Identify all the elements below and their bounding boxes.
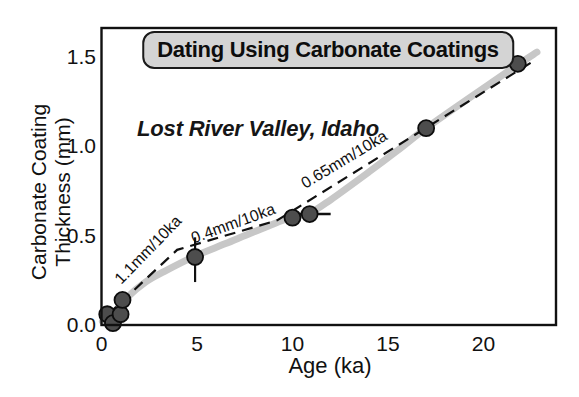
x-tick-label: 20 — [472, 332, 495, 355]
trend-band — [102, 52, 536, 321]
y-axis-title-line2: Thickness (mm) — [51, 104, 75, 280]
x-tick-label: 15 — [376, 332, 399, 355]
data-point — [302, 206, 318, 222]
x-axis-title: Age (ka) — [288, 353, 371, 379]
y-tick-label: 1.5 — [67, 45, 96, 68]
x-tick-label: 0 — [96, 332, 108, 355]
data-point — [418, 120, 434, 136]
data-point — [284, 210, 300, 226]
x-tick-label: 5 — [191, 332, 203, 355]
chart-title: Dating Using Carbonate Coatings — [157, 37, 499, 62]
y-tick-label: 0.0 — [67, 313, 96, 336]
data-point — [115, 292, 131, 308]
y-axis-title: Carbonate Coating Thickness (mm) — [27, 104, 75, 280]
chart-title-box: Dating Using Carbonate Coatings — [142, 31, 514, 69]
y-axis-title-line1: Carbonate Coating — [27, 104, 51, 280]
data-point — [187, 249, 203, 265]
data-point — [113, 306, 129, 322]
x-tick-label: 10 — [281, 332, 304, 355]
chart-figure: 051015200.00.51.01.51.1mm/10ka0.4mm/10ka… — [0, 0, 579, 397]
chart-subtitle: Lost River Valley, Idaho — [137, 116, 379, 142]
